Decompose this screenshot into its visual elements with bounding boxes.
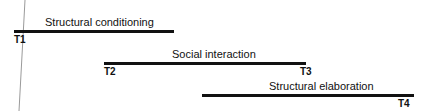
time-marker-t3: T3 bbox=[300, 66, 312, 77]
phase-label: Social interaction bbox=[172, 48, 256, 60]
phase-label: Structural elaboration bbox=[269, 80, 374, 92]
time-marker-t4: T4 bbox=[398, 98, 410, 109]
phase-bar bbox=[104, 62, 306, 65]
phase-label: Structural conditioning bbox=[45, 16, 154, 28]
phase-bar bbox=[202, 94, 414, 97]
time-marker-t1: T1 bbox=[14, 34, 26, 45]
time-marker-t2: T2 bbox=[104, 66, 116, 77]
phase-bar bbox=[14, 30, 174, 33]
